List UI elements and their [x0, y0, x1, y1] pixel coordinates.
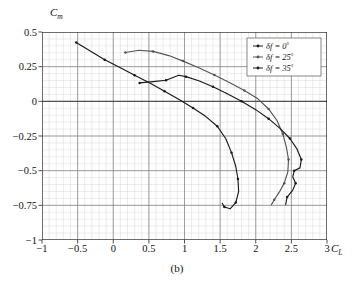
data-point [243, 89, 246, 92]
data-point [165, 79, 168, 82]
y-tick-label: 0 [32, 96, 37, 107]
data-point [273, 199, 276, 202]
y-tick-label: −1 [26, 235, 37, 246]
data-point [267, 108, 270, 111]
y-tick-label: 0.25 [19, 61, 37, 72]
x-tick-label: 1.5 [214, 243, 227, 254]
data-point [240, 100, 243, 103]
data-point [75, 41, 78, 44]
legend-label-1: δf = 25° [266, 52, 294, 62]
legend: δf = 0°δf = 25°δf = 35° [247, 38, 321, 76]
data-point [185, 75, 188, 78]
data-point [124, 51, 127, 54]
y-tick-label: −0.75 [13, 200, 37, 211]
x-tick-label: 0 [111, 243, 116, 254]
data-point [103, 58, 106, 61]
data-point [138, 82, 141, 85]
data-point [163, 90, 166, 93]
pitching-moment-chart: δf = 0°δf = 25°δf = 35° [42, 32, 327, 240]
y-tick-label: 0.5 [24, 27, 37, 38]
x-tick-label: 3 [324, 243, 329, 254]
plot-area: δf = 0°δf = 25°δf = 35° [42, 32, 327, 240]
data-point [152, 50, 155, 53]
data-point [289, 137, 292, 140]
data-point [287, 158, 290, 161]
data-point [235, 201, 238, 204]
figure-panel-b: δf = 0°δf = 25°δf = 35° 0.50.250−0.25−0.… [0, 0, 355, 285]
data-point [267, 117, 270, 120]
x-tick-label: −1 [36, 243, 47, 254]
legend-label-2: δf = 35° [266, 63, 294, 73]
data-point [192, 107, 195, 110]
data-point [282, 133, 285, 136]
data-point [300, 158, 303, 161]
y-axis-title: Cm [50, 6, 63, 21]
x-tick-label: −0.5 [68, 243, 87, 254]
data-point [286, 196, 289, 199]
data-point [223, 206, 226, 209]
figure-caption: (b) [171, 262, 184, 275]
data-point [213, 74, 216, 77]
y-tick-label: −0.5 [18, 165, 37, 176]
x-tick-label: 0.5 [142, 243, 155, 254]
data-point [237, 178, 240, 181]
data-point [293, 169, 296, 172]
data-point [294, 182, 297, 185]
x-axis-title: CL [331, 242, 343, 257]
legend-label-0: δf = 0° [266, 41, 290, 51]
data-point [182, 60, 185, 63]
y-tick-label: −0.25 [13, 131, 37, 142]
x-tick-label: 1 [182, 243, 187, 254]
data-point [216, 125, 219, 128]
data-point [212, 86, 215, 89]
data-point [133, 74, 136, 77]
data-point [283, 182, 286, 185]
data-point [230, 151, 233, 154]
x-tick-label: 2 [253, 243, 258, 254]
x-tick-label: 2.5 [285, 243, 298, 254]
